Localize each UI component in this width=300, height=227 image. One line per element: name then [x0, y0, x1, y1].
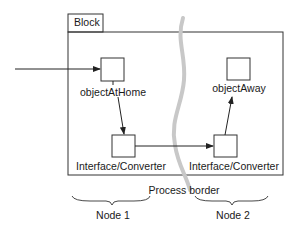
node-1-label: Node 1	[96, 210, 130, 221]
object-away-label: objectAway	[212, 83, 266, 94]
process-border-label: Process border	[148, 185, 219, 196]
arrow-home-to-converter-body	[118, 97, 124, 134]
converter-1-label: Interface/Converter	[76, 161, 166, 172]
converter-box-1	[112, 135, 135, 157]
node-1-brace	[72, 196, 150, 205]
process-border-line	[174, 18, 190, 190]
node-2-brace	[195, 196, 268, 205]
node-2-label: Node 2	[216, 210, 250, 221]
block-label: Block	[74, 17, 100, 28]
object-at-home-box	[101, 58, 124, 81]
object-at-home-label: objectAtHome	[80, 87, 146, 98]
converter-2-label: Interface/Converter	[189, 161, 279, 172]
object-away-box	[227, 58, 250, 80]
converter-box-2	[214, 135, 237, 157]
arrow-converter-to-away	[225, 97, 232, 135]
